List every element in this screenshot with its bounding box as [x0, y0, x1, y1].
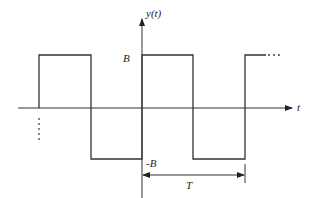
period-label: T — [186, 179, 193, 191]
low-level-label: -B — [146, 157, 157, 169]
x-axis-label: t — [297, 101, 301, 113]
square-wave — [39, 55, 266, 159]
high-level-label: B — [123, 52, 130, 64]
y-axis-label: y(t) — [145, 7, 162, 20]
square-wave-diagram: y(t) t B -B T — [0, 0, 314, 198]
